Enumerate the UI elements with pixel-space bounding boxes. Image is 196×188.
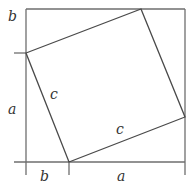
label-side-c-left: c bbox=[50, 86, 58, 102]
label-top-left-b: b bbox=[8, 8, 17, 24]
label-left-a: a bbox=[8, 101, 16, 117]
label-side-c-bottom: c bbox=[116, 121, 124, 137]
label-bottom-b: b bbox=[40, 168, 49, 184]
diagram-svg: b a b a c c bbox=[0, 0, 196, 188]
label-bottom-a: a bbox=[117, 168, 125, 184]
pythagorean-diagram: b a b a c c bbox=[0, 0, 196, 188]
